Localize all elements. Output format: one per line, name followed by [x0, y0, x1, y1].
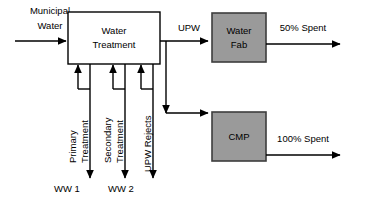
water-fab-label-line1: Water	[227, 25, 252, 36]
water-fab-output: 50% Spent	[266, 22, 340, 44]
water-treatment-label-line1: Water	[102, 25, 127, 36]
primary-treatment-label-line1: Primary	[67, 130, 78, 163]
return-stream-upw-rejects: UPW Rejects	[141, 64, 153, 178]
flow-diagram-canvas: Municipal Water Water Treatment UPW Wate…	[0, 0, 365, 203]
municipal-water-inlet: Municipal Water	[15, 5, 70, 41]
fab-output-label: 50% Spent	[280, 22, 327, 33]
return-stream-secondary-treatment: Secondary Treatment WW 2	[102, 64, 134, 194]
upw-rejects-label-line1: UPW Rejects	[142, 115, 153, 172]
municipal-water-label-line1: Municipal	[30, 5, 70, 16]
water-treatment-label-line2: Treatment	[93, 39, 136, 50]
upw-trunk: UPW	[160, 22, 208, 113]
node-water-treatment[interactable]: Water Treatment	[68, 12, 160, 64]
water-fab-box[interactable]	[212, 13, 266, 62]
outfall-label-ww1: WW 1	[54, 183, 80, 194]
upw-label: UPW	[178, 22, 200, 33]
cmp-output: 100% Spent	[266, 133, 340, 155]
cmp-output-label: 100% Spent	[277, 133, 329, 144]
primary-treatment-label-line2: Treatment	[79, 120, 90, 163]
municipal-water-label-line2: Water	[38, 20, 63, 31]
water-fab-label-line2: Fab	[231, 39, 247, 50]
outfall-label-ww2: WW 2	[108, 183, 134, 194]
return-stream-primary-treatment: Primary Treatment WW 1	[54, 64, 90, 194]
flow-diagram-svg: Municipal Water Water Treatment UPW Wate…	[0, 0, 365, 203]
secondary-treatment-label-line1: Secondary	[102, 117, 113, 163]
node-water-fab[interactable]: Water Fab	[212, 13, 266, 62]
cmp-label-line1: CMP	[228, 131, 249, 142]
secondary-treatment-label-line2: Treatment	[114, 120, 125, 163]
node-cmp[interactable]: CMP	[212, 112, 266, 161]
